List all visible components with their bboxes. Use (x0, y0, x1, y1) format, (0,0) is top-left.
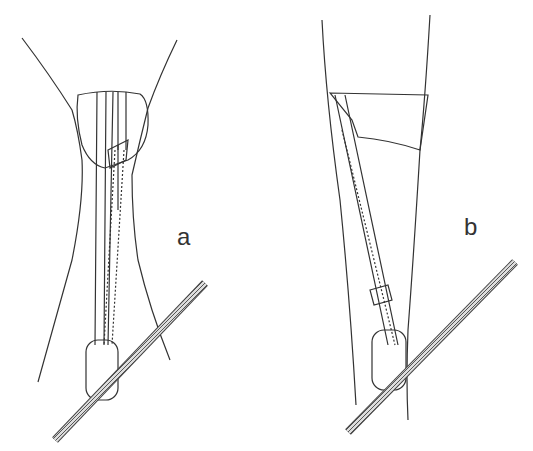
diagram-drawing (0, 0, 533, 451)
panel-label-b: b (464, 213, 477, 241)
panel-label-a: a (177, 223, 190, 251)
left-crack-wall-a (22, 38, 82, 382)
panel-a (22, 38, 177, 400)
panel-b (322, 15, 430, 420)
left-crack-wall-b (322, 20, 356, 405)
right-crack-wall-a (132, 40, 177, 360)
illustration-canvas: a b (0, 0, 533, 451)
